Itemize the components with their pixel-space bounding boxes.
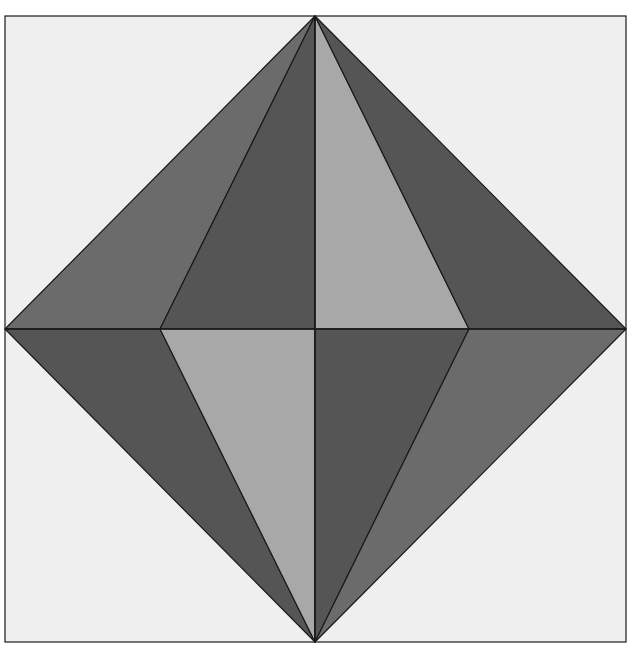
- diamond-diagram: [0, 0, 633, 654]
